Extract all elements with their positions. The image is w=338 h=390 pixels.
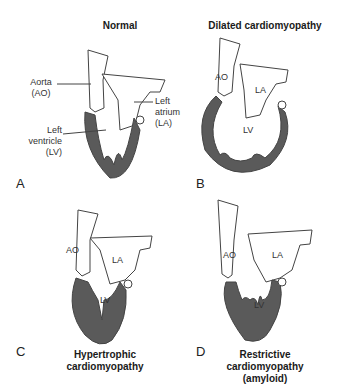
label-c-la: LA — [112, 255, 123, 266]
cardiomyopathy-diagram — [0, 0, 338, 390]
panel-a-letter: A — [16, 176, 25, 191]
panel-b-title: Dilated cardiomyopathy — [195, 20, 335, 32]
label-aorta: Aorta (AO) — [24, 77, 58, 99]
label-left-atrium: Left atrium (LA) — [155, 96, 180, 129]
heart-normal — [57, 50, 165, 178]
label-d-lv: LV — [254, 300, 264, 311]
label-d-la: LA — [272, 250, 283, 261]
heart-dilated — [202, 38, 288, 172]
panel-b-letter: B — [196, 176, 205, 191]
heart-hypertrophic — [72, 210, 152, 344]
label-b-lv: LV — [243, 125, 253, 136]
label-left-ventricle: Left ventricle (LV) — [18, 125, 62, 158]
label-c-lv: LV — [100, 295, 110, 306]
label-c-ao: AO — [66, 245, 79, 256]
panel-a-title: Normal — [90, 20, 150, 32]
heart-restrictive — [218, 200, 312, 341]
label-d-ao: AO — [223, 250, 236, 261]
panel-c-letter: C — [16, 344, 25, 359]
label-b-ao: AO — [215, 72, 228, 83]
label-b-la: LA — [255, 85, 266, 96]
panel-d-title: Restrictive cardiomyopathy (amyloid) — [205, 349, 325, 385]
panel-d-letter: D — [196, 344, 205, 359]
panel-c-title: Hypertrophic cardiomyopathy — [50, 349, 160, 373]
